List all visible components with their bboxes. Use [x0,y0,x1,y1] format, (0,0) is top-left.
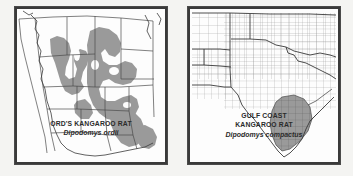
map-panel-ords-kangaroo-rat: ORD'S KANGAROO RAT Dipodomys ordii [14,6,168,165]
map-panel-gulf-coast-kangaroo-rat: GULF COAST KANGAROO RAT Dipodomys compac… [187,6,341,165]
gulf-coast-kangaroo-rat-range-map [190,9,338,162]
map-canvas-ords-kangaroo-rat [17,9,165,162]
range-map-figure: ORD'S KANGAROO RAT Dipodomys ordii [0,0,353,176]
map-canvas-gulf-coast-kangaroo-rat [190,9,338,162]
ords-kangaroo-rat-range-map [17,9,165,162]
